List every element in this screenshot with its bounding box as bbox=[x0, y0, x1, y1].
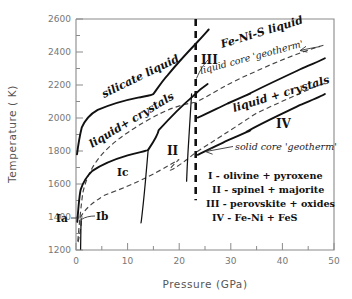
y-tick-label: 1200 bbox=[48, 245, 71, 255]
y-tick-label: 1800 bbox=[48, 146, 71, 156]
legend-line: IV - Fe-Ni + FeS bbox=[212, 212, 297, 223]
legend-line: I - olivine + pyroxene bbox=[208, 170, 323, 181]
y-tick-label: 2600 bbox=[48, 14, 71, 24]
legend-line: III - perovskite + oxides bbox=[206, 198, 335, 209]
y-axis-title: Temperature ( K) bbox=[6, 85, 18, 184]
x-tick-label: 10 bbox=[122, 256, 134, 266]
x-tick-label: 30 bbox=[225, 256, 237, 266]
region-marker-ic: Ic bbox=[117, 166, 128, 178]
y-tick-label: 2400 bbox=[48, 47, 71, 57]
phase-diagram-svg: 2600 2400 2200 2000 1800 1600 1400 1200 … bbox=[0, 0, 352, 299]
region-marker-ia: Ia bbox=[56, 212, 68, 224]
y-tick-label: 1600 bbox=[48, 179, 71, 189]
region-marker-iii: III bbox=[201, 53, 218, 67]
phase-diagram-figure: 2600 2400 2200 2000 1800 1600 1400 1200 … bbox=[0, 0, 352, 299]
x-tick-label: 50 bbox=[328, 256, 340, 266]
y-tick-label: 2200 bbox=[48, 80, 71, 90]
x-tick-label: 40 bbox=[277, 256, 289, 266]
x-tick-label: 0 bbox=[73, 256, 79, 266]
region-marker-ib: Ib bbox=[96, 210, 108, 222]
x-tick-label: 20 bbox=[173, 256, 185, 266]
legend-line: II - spinel + majorite bbox=[212, 184, 324, 195]
region-marker-ii: II bbox=[167, 144, 179, 158]
region-marker-iv: IV bbox=[276, 117, 292, 131]
x-axis-title: Pressure (GPa) bbox=[162, 278, 247, 290]
ib-ic-boundary-line bbox=[81, 219, 82, 250]
solid-core-geotherm-label: solid core 'geotherm' bbox=[235, 141, 337, 152]
y-tick-label: 2000 bbox=[48, 113, 71, 123]
